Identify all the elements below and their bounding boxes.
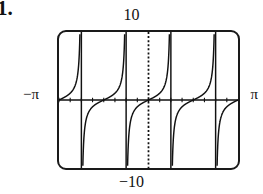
figure-root: 1. 10 −10 −π π (0, 0, 263, 194)
x-min-label: −π (23, 87, 39, 102)
x-max-label: π (250, 87, 258, 102)
tangent-graph (59, 32, 238, 168)
y-min-label: −10 (0, 174, 263, 190)
y-max-label: 10 (0, 7, 263, 23)
calculator-screen (57, 30, 240, 170)
